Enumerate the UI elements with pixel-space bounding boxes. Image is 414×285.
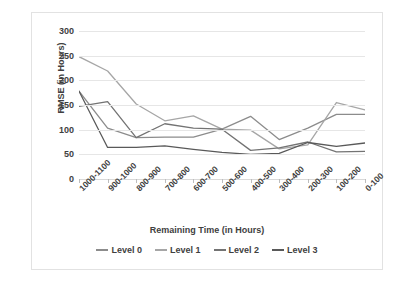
legend-item-level-3[interactable]: Level 3 [272, 245, 318, 255]
chart-container: RMSE (in Hours) 050100150200250300 1000-… [31, 12, 383, 270]
legend-label: Level 2 [229, 245, 260, 255]
chart-legend: Level 0Level 1Level 2Level 3 [32, 245, 382, 255]
y-tick-label: 0 [69, 174, 74, 184]
y-tick-label: 50 [64, 149, 74, 159]
legend-item-level-1[interactable]: Level 1 [155, 245, 201, 255]
gridline [79, 105, 365, 106]
y-tick-label: 100 [59, 125, 74, 135]
gridline [79, 130, 365, 131]
legend-line-icon [96, 249, 108, 251]
series-line-level-0 [79, 91, 365, 139]
legend-line-icon [272, 249, 284, 251]
gridline [79, 80, 365, 81]
plot-area: 050100150200250300 1000-1100900-1000800-… [79, 31, 365, 179]
series-line-level-1 [79, 57, 365, 149]
x-axis-title: Remaining Time (in Hours) [32, 225, 382, 235]
legend-label: Level 1 [170, 245, 201, 255]
legend-item-level-2[interactable]: Level 2 [214, 245, 260, 255]
gridline [79, 154, 365, 155]
legend-label: Level 0 [111, 245, 142, 255]
y-tick-label: 150 [59, 100, 74, 110]
legend-item-level-0[interactable]: Level 0 [96, 245, 142, 255]
legend-line-icon [155, 249, 167, 251]
y-tick-label: 300 [59, 26, 74, 36]
x-tick-label: 0-100 [363, 171, 385, 193]
legend-line-icon [214, 249, 226, 251]
gridline [79, 56, 365, 57]
y-tick-label: 250 [59, 51, 74, 61]
gridline [79, 31, 365, 32]
y-tick-label: 200 [59, 75, 74, 85]
legend-label: Level 3 [287, 245, 318, 255]
